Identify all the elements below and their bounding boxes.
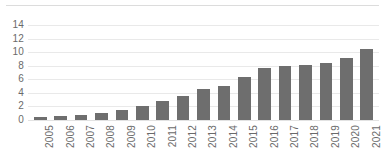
x-axis: 2005200620072008200920102011201220132014… xyxy=(28,121,379,168)
bar xyxy=(340,58,353,120)
x-tick-slot: 2020 xyxy=(336,121,356,168)
y-tick-label: 6 xyxy=(18,74,24,84)
y-tick-label: 14 xyxy=(12,20,24,30)
x-tick-slot: 2007 xyxy=(71,121,91,168)
y-tick-label: 2 xyxy=(18,101,24,111)
header-divider xyxy=(6,5,379,6)
x-tick-slot: 2015 xyxy=(234,121,254,168)
bar xyxy=(320,63,333,120)
bar xyxy=(238,77,251,120)
x-tick-slot: 2019 xyxy=(316,121,336,168)
x-tick-slot: 2021 xyxy=(357,121,377,168)
bar xyxy=(299,65,312,120)
x-tick-slot: 2008 xyxy=(91,121,111,168)
bar xyxy=(136,106,149,120)
y-tick-label: 12 xyxy=(12,34,24,44)
bar xyxy=(197,89,210,120)
bar-chart: 02468101214 2005200620072008200920102011… xyxy=(0,0,385,168)
bar xyxy=(54,116,67,120)
bar-slot xyxy=(254,25,274,120)
bar xyxy=(218,86,231,120)
x-tick-slot: 2009 xyxy=(112,121,132,168)
bar xyxy=(95,113,108,120)
bar xyxy=(34,117,47,120)
bar xyxy=(279,66,292,120)
x-tick-slot: 2014 xyxy=(214,121,234,168)
bar-slot xyxy=(214,25,234,120)
x-tick-slot: 2010 xyxy=(132,121,152,168)
bar xyxy=(156,101,169,120)
bar-slot xyxy=(316,25,336,120)
bar-slot xyxy=(132,25,152,120)
y-tick-label: 0 xyxy=(18,115,24,125)
x-tick-slot: 2016 xyxy=(254,121,274,168)
bar-series xyxy=(28,25,379,120)
bar-slot xyxy=(112,25,132,120)
bar-slot xyxy=(234,25,254,120)
x-tick-slot: 2018 xyxy=(295,121,315,168)
x-tick-slot: 2013 xyxy=(193,121,213,168)
bar-slot xyxy=(275,25,295,120)
bar-slot xyxy=(357,25,377,120)
y-tick-label: 8 xyxy=(18,61,24,71)
x-tick-slot: 2006 xyxy=(50,121,70,168)
x-tick-slot: 2005 xyxy=(30,121,50,168)
bar-slot xyxy=(193,25,213,120)
bar-slot xyxy=(30,25,50,120)
bar-slot xyxy=(173,25,193,120)
bar-slot xyxy=(295,25,315,120)
y-axis: 02468101214 xyxy=(0,25,24,120)
x-tick-slot: 2012 xyxy=(173,121,193,168)
x-tick-slot: 2017 xyxy=(275,121,295,168)
bar xyxy=(75,115,88,120)
y-tick-label: 10 xyxy=(12,47,24,57)
x-tick-label: 2021 xyxy=(372,125,382,148)
bar xyxy=(258,68,271,120)
bar-slot xyxy=(50,25,70,120)
bar-slot xyxy=(336,25,356,120)
bar-slot xyxy=(152,25,172,120)
bar-slot xyxy=(91,25,111,120)
bar xyxy=(116,110,129,120)
bar-slot xyxy=(71,25,91,120)
x-tick-slot: 2011 xyxy=(152,121,172,168)
y-tick-label: 4 xyxy=(18,88,24,98)
plot-area xyxy=(28,25,379,120)
bar xyxy=(177,96,190,120)
bar xyxy=(360,49,373,120)
